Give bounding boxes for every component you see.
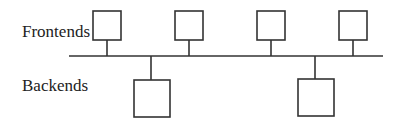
frontend-box (339, 11, 367, 40)
backends-label: Backends (22, 76, 88, 95)
frontend-node (339, 11, 367, 56)
backend-node (298, 56, 334, 116)
backend-node (134, 56, 170, 117)
frontends-label: Frontends (22, 22, 90, 41)
backend-box (298, 79, 334, 116)
frontend-box (93, 11, 121, 40)
bus-diagram: Frontends Backends (0, 0, 401, 128)
frontend-box (257, 11, 285, 40)
frontend-node (257, 11, 285, 56)
frontend-box (175, 11, 203, 40)
frontend-node (93, 11, 121, 56)
frontend-node (175, 11, 203, 56)
backend-box (134, 80, 170, 117)
